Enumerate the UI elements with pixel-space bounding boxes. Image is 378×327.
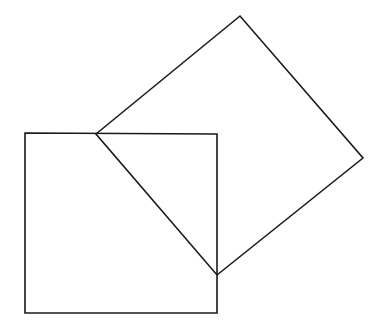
two-squares-diagram bbox=[0, 0, 378, 327]
axis-aligned-square bbox=[25, 133, 217, 313]
rotated-square bbox=[96, 16, 363, 275]
